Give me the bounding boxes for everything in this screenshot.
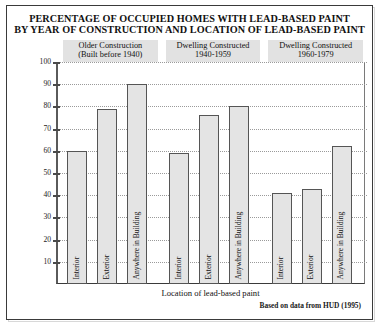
y-axis-tick-label: 100 — [40, 58, 51, 66]
bar-category-label-text: Exterior — [308, 255, 316, 280]
chart-title: PERCENTAGE OF OCCUPIED HOMES WITH LEAD-B… — [10, 13, 369, 36]
bar-category-label-text: Anywhere in Building — [235, 212, 243, 280]
group-header-1940-line-1: Dwelling Constructed — [166, 41, 261, 51]
bar: Anywhere in Building — [127, 84, 147, 284]
bar-category-label-text: Anywhere in Building — [133, 212, 141, 280]
y-axis-tick-mark — [53, 195, 60, 197]
group-header-older-construction: Older Construction (Built before 1940) — [63, 40, 158, 62]
bar-group: InteriorExteriorAnywhere in Building — [265, 62, 367, 284]
chart-title-line-1: PERCENTAGE OF OCCUPIED HOMES WITH LEAD-B… — [10, 13, 369, 24]
y-axis-tick-mark — [53, 62, 60, 64]
chart-title-line-2: BY YEAR OF CONSTRUCTION AND LOCATION OF … — [10, 24, 369, 35]
y-axis-tick-label: 60 — [43, 147, 51, 155]
y-axis-tick-label: 90 — [43, 80, 51, 88]
y-axis-tick-mark — [53, 240, 60, 242]
group-header-older-line-1: Older Construction — [63, 41, 158, 51]
source-note: Based on data from HUD (1995) — [260, 301, 361, 310]
y-axis-tick-mark — [53, 217, 60, 219]
y-axis-title: Percentage of homes with lead-based pain… — [26, 0, 42, 62]
y-axis-tick-label: 70 — [43, 125, 51, 133]
plot-wrapper: 102030405060708090100 InteriorExteriorAn… — [56, 62, 365, 284]
bar-category-label-text: Interior — [73, 257, 81, 280]
y-axis-tick-label: 80 — [43, 103, 51, 111]
y-axis-tick-mark — [53, 151, 60, 153]
y-axis-tick-label: 10 — [43, 258, 51, 266]
y-axis-tick-label: 50 — [43, 169, 51, 177]
group-header-band: Older Construction (Built before 1940) D… — [59, 40, 367, 62]
bar: Anywhere in Building — [229, 106, 249, 284]
y-axis-tick-mark — [53, 84, 60, 86]
y-axis-tick-label: 30 — [43, 214, 51, 222]
group-header-1960-1979: Dwelling Constructed 1960-1979 — [268, 40, 363, 62]
bar: Exterior — [302, 189, 322, 284]
bars-layer: InteriorExteriorAnywhere in BuildingInte… — [60, 62, 367, 284]
y-axis-tick-label: 40 — [43, 191, 51, 199]
bar: Exterior — [199, 115, 219, 284]
bar: Anywhere in Building — [332, 146, 352, 284]
y-axis-tick-mark — [53, 262, 60, 264]
bar-category-label-text: Exterior — [205, 255, 213, 280]
plot-area: 102030405060708090100 InteriorExteriorAn… — [56, 62, 365, 284]
x-axis-title: Location of lead-based paint — [56, 288, 365, 298]
group-header-1960-line-1: Dwelling Constructed — [268, 41, 363, 51]
group-header-older-line-2: (Built before 1940) — [63, 50, 158, 60]
bar: Exterior — [97, 109, 117, 284]
bar: Interior — [169, 153, 189, 284]
bar-group: InteriorExteriorAnywhere in Building — [162, 62, 264, 284]
bar: Interior — [67, 151, 87, 284]
group-header-1960-line-2: 1960-1979 — [268, 50, 363, 60]
group-header-1940-line-2: 1940-1959 — [166, 50, 261, 60]
bar-category-label-text: Anywhere in Building — [338, 212, 346, 280]
bar: Interior — [272, 193, 292, 284]
bar-category-label-text: Interior — [278, 257, 286, 280]
y-axis-tick-mark — [53, 106, 60, 108]
bar-category-label-text: Exterior — [103, 255, 111, 280]
y-axis-tick-label: 20 — [43, 236, 51, 244]
chart-figure: PERCENTAGE OF OCCUPIED HOMES WITH LEAD-B… — [0, 0, 381, 328]
bar-category-label-text: Interior — [175, 257, 183, 280]
group-header-1940-1959: Dwelling Constructed 1940-1959 — [166, 40, 261, 62]
bar-group: InteriorExteriorAnywhere in Building — [60, 62, 162, 284]
y-axis-tick-mark — [53, 129, 60, 131]
y-axis-tick-mark — [53, 173, 60, 175]
